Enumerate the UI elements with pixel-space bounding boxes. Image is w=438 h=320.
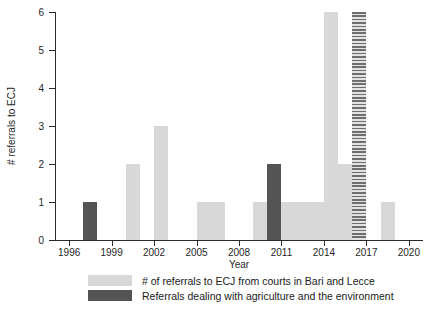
bar-2000 (126, 164, 140, 240)
y-tick-5 (49, 50, 55, 51)
chart-figure: 0123456 19961999200220052008201120142017… (0, 0, 438, 320)
y-axis-title: # referrals to ECJ (6, 56, 17, 196)
y-tick-6 (49, 12, 55, 13)
bar-2002 (154, 126, 168, 240)
legend-item-1: # of referrals to ECJ from courts in Bar… (88, 274, 418, 287)
x-tick-label-2020: 2020 (389, 247, 429, 258)
y-tick-label-6: 6 (22, 7, 44, 18)
y-tick-label-4: 4 (22, 83, 44, 94)
y-tick-1 (49, 202, 55, 203)
bar-2010 (267, 164, 281, 240)
x-tick-2005 (197, 241, 198, 246)
y-tick-3 (49, 126, 55, 127)
x-tick-2020 (409, 241, 410, 246)
bar-2012 (296, 202, 310, 240)
x-tick-2002 (154, 241, 155, 246)
y-tick-0 (49, 240, 55, 241)
bar-2011 (281, 202, 295, 240)
bar-2013 (310, 202, 324, 240)
legend-label-1: # of referrals to ECJ from courts in Bar… (142, 275, 375, 287)
y-tick-2 (49, 164, 55, 165)
x-tick-2014 (324, 241, 325, 246)
y-tick-label-3: 3 (22, 121, 44, 132)
x-axis-title: Year (55, 259, 423, 270)
x-tick-2008 (239, 241, 240, 246)
bar-1997 (83, 202, 97, 240)
y-tick-label-2: 2 (22, 159, 44, 170)
x-tick-1996 (69, 241, 70, 246)
y-tick-label-0: 0 (22, 235, 44, 246)
bar-2014 (324, 12, 338, 240)
x-tick-label-2002: 2002 (134, 247, 174, 258)
x-tick-label-1996: 1996 (49, 247, 89, 258)
y-tick-label-5: 5 (22, 45, 44, 56)
x-tick-label-2017: 2017 (346, 247, 386, 258)
x-tick-label-2014: 2014 (304, 247, 344, 258)
bar-2018 (381, 202, 395, 240)
y-tick-4 (49, 88, 55, 89)
x-tick-2017 (366, 241, 367, 246)
x-tick-label-1999: 1999 (92, 247, 132, 258)
x-tick-label-2011: 2011 (261, 247, 301, 258)
bar-2015 (338, 164, 352, 240)
plot-area (55, 12, 423, 240)
y-axis-line (55, 12, 56, 240)
bars-layer (55, 12, 423, 240)
bar-2006 (211, 202, 225, 240)
legend-item-2: Referrals dealing with agriculture and t… (88, 289, 418, 302)
legend-swatch-1 (88, 275, 132, 286)
x-tick-2011 (281, 241, 282, 246)
legend-label-2: Referrals dealing with agriculture and t… (142, 290, 394, 302)
chart-legend: # of referrals to ECJ from courts in Bar… (88, 274, 418, 304)
y-tick-label-1: 1 (22, 197, 44, 208)
bar-2005 (197, 202, 211, 240)
x-tick-1999 (112, 241, 113, 246)
bar-2009 (253, 202, 267, 240)
bar-2016 (352, 12, 366, 240)
x-tick-label-2008: 2008 (219, 247, 259, 258)
x-tick-label-2005: 2005 (177, 247, 217, 258)
legend-swatch-2 (88, 290, 132, 301)
